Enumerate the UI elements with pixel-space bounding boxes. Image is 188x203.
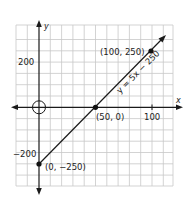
- arrow-left-icon: [11, 105, 18, 111]
- point-label-b: (50, 0): [96, 112, 124, 122]
- x-axis-label: x: [175, 96, 181, 105]
- point-0-neg250: [36, 161, 41, 166]
- arrow-down-icon: [36, 188, 42, 195]
- point-100-250: [148, 48, 153, 53]
- point-label-a: (0, −250): [45, 162, 86, 172]
- point-50-0: [93, 105, 98, 110]
- arrow-up-icon: [36, 20, 42, 27]
- x-tick-100: 100: [144, 112, 160, 122]
- point-label-c: (100, 250): [100, 47, 144, 57]
- y-tick-neg200: −200: [13, 149, 36, 159]
- y-tick-200: 200: [18, 57, 34, 67]
- line-graph: x 100 y 200 −200 y = 5x − 250 (0, −250) …: [0, 0, 188, 203]
- y-axis-label: y: [43, 22, 49, 31]
- arrow-right-icon: [176, 105, 183, 111]
